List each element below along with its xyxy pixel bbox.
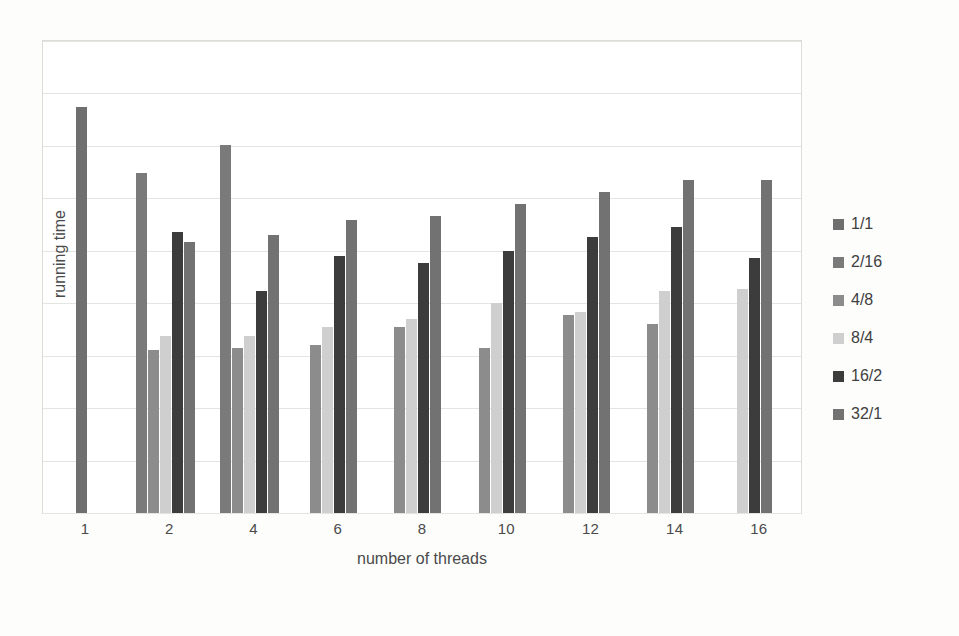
- bar: [515, 204, 526, 513]
- bar: [148, 350, 159, 513]
- bar: [136, 173, 147, 513]
- bar: [172, 232, 183, 513]
- bar-group: [211, 41, 295, 513]
- x-axis-title: number of threads: [43, 550, 801, 568]
- bar-groups: [43, 41, 801, 513]
- bar-group: [127, 41, 211, 513]
- bar: [761, 180, 772, 513]
- bar: [232, 348, 243, 513]
- bar-group: [380, 41, 464, 513]
- bar-group: [717, 41, 801, 513]
- bar: [647, 324, 658, 513]
- bar: [76, 107, 87, 513]
- x-axis-tick-label: 8: [380, 520, 464, 537]
- bar: [346, 220, 357, 513]
- chart-legend: 1/12/164/88/416/232/1: [833, 205, 943, 433]
- bar: [406, 319, 417, 513]
- legend-swatch-icon: [833, 219, 844, 230]
- bar: [322, 327, 333, 513]
- bar: [418, 263, 429, 513]
- legend-swatch-icon: [833, 295, 844, 306]
- legend-label: 32/1: [851, 406, 882, 422]
- bar-group: [464, 41, 548, 513]
- legend-item: 8/4: [833, 319, 943, 357]
- bar-group: [633, 41, 717, 513]
- chart-screenshot: 1246810121416 number of threads running …: [0, 0, 959, 636]
- legend-swatch-icon: [833, 409, 844, 420]
- legend-label: 16/2: [851, 368, 882, 384]
- bar: [256, 291, 267, 513]
- legend-item: 1/1: [833, 205, 943, 243]
- bar: [671, 227, 682, 513]
- bar: [479, 348, 490, 513]
- bar: [310, 345, 321, 513]
- bar: [563, 315, 574, 513]
- legend-swatch-icon: [833, 257, 844, 268]
- bar: [587, 237, 598, 513]
- x-axis-tick-label: 2: [127, 520, 211, 537]
- bar-group: [548, 41, 632, 513]
- bar: [220, 145, 231, 513]
- bar-chart-figure: 1246810121416 number of threads running …: [0, 0, 959, 636]
- bar: [430, 216, 441, 513]
- x-axis-tick-label: 16: [717, 520, 801, 537]
- bar-group: [296, 41, 380, 513]
- legend-swatch-icon: [833, 371, 844, 382]
- bar: [659, 291, 670, 513]
- y-axis-title: running time: [51, 174, 69, 334]
- x-axis-tick-label: 12: [548, 520, 632, 537]
- x-axis-tick-labels: 1246810121416: [43, 520, 801, 546]
- bar: [268, 235, 279, 513]
- x-axis-tick-label: 4: [211, 520, 295, 537]
- bar: [244, 336, 255, 513]
- bar: [394, 327, 405, 513]
- bar: [160, 336, 171, 513]
- bar: [334, 256, 345, 513]
- bar: [184, 242, 195, 513]
- legend-item: 4/8: [833, 281, 943, 319]
- legend-item: 32/1: [833, 395, 943, 433]
- x-axis-tick-label: 6: [296, 520, 380, 537]
- x-axis-tick-label: 14: [633, 520, 717, 537]
- plot-area: [43, 41, 801, 513]
- bar: [599, 192, 610, 513]
- legend-label: 2/16: [851, 254, 882, 270]
- legend-label: 8/4: [851, 330, 873, 346]
- legend-swatch-icon: [833, 333, 844, 344]
- legend-item: 2/16: [833, 243, 943, 281]
- x-axis-tick-label: 10: [464, 520, 548, 537]
- bar: [737, 289, 748, 513]
- bar: [503, 251, 514, 513]
- bar: [491, 303, 502, 513]
- legend-label: 4/8: [851, 292, 873, 308]
- legend-item: 16/2: [833, 357, 943, 395]
- legend-label: 1/1: [851, 216, 873, 232]
- x-axis-tick-label: 1: [43, 520, 127, 537]
- bar: [749, 258, 760, 513]
- bar: [575, 312, 586, 513]
- bar: [683, 180, 694, 513]
